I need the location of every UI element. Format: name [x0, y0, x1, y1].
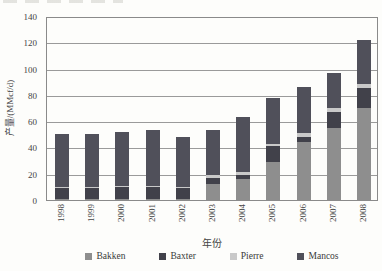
bar-segment-mancos-2000 — [115, 132, 129, 186]
bar-segment-baxter-2001 — [146, 187, 160, 199]
y-tick-label-60: 60 — [0, 117, 42, 127]
stacked-bar-2002 — [176, 137, 190, 200]
bar-segment-bakken-2004 — [236, 179, 250, 200]
x-tick-label-2006: 2006 — [298, 204, 308, 234]
bar-segment-bakken-1998 — [55, 199, 69, 200]
legend-label-bakken: Bakken — [96, 251, 125, 261]
legend-swatch-bakken — [85, 253, 92, 260]
legend-label-baxter: Baxter — [170, 251, 195, 261]
bar-segment-bakken-2003 — [206, 184, 220, 200]
bar-segment-bakken-2002 — [176, 199, 190, 200]
legend-item-pierre: Pierre — [230, 251, 264, 261]
bar-segment-mancos-1998 — [55, 134, 69, 187]
bar-segment-baxter-2007 — [327, 112, 341, 128]
scan-artifact — [3, 0, 123, 3]
bar-segment-mancos-2003 — [206, 130, 220, 175]
bar-segment-mancos-1999 — [85, 134, 99, 187]
bar-segment-mancos-2006 — [297, 87, 311, 133]
x-tick-label-1999: 1999 — [86, 204, 96, 234]
stacked-bar-2003 — [206, 130, 220, 200]
y-tick-label-20: 20 — [0, 170, 42, 180]
x-tick-label-2004: 2004 — [237, 204, 247, 234]
x-tick-label-2003: 2003 — [207, 204, 217, 234]
x-tick-label-1998: 1998 — [56, 204, 66, 234]
bar-segment-mancos-2004 — [236, 117, 250, 172]
stacked-bar-2001 — [146, 130, 160, 200]
bar-segment-baxter-2002 — [176, 188, 190, 199]
bar-segment-bakken-2005 — [266, 162, 280, 200]
y-tick-label-80: 80 — [0, 91, 42, 101]
bar-segment-bakken-2000 — [115, 199, 129, 200]
y-tick-label-140: 140 — [0, 12, 42, 22]
legend-item-mancos: Mancos — [297, 251, 338, 261]
stacked-bar-2006 — [297, 87, 311, 200]
x-tick-label-2000: 2000 — [116, 204, 126, 234]
bar-segment-baxter-2000 — [115, 187, 129, 199]
bar-segment-mancos-2002 — [176, 137, 190, 187]
legend-swatch-pierre — [230, 253, 237, 260]
x-tick-label-2001: 2001 — [147, 204, 157, 234]
stacked-bar-2004 — [236, 117, 250, 200]
gridline-y-120 — [47, 43, 377, 44]
bar-segment-baxter-2005 — [266, 146, 280, 162]
bar-segment-mancos-2008 — [357, 40, 371, 85]
bar-segment-bakken-2008 — [357, 108, 371, 200]
legend-swatch-baxter — [159, 253, 166, 260]
legend-item-baxter: Baxter — [159, 251, 195, 261]
y-tick-label-120: 120 — [0, 38, 42, 48]
y-axis-title: 产量/(MMcf/d) — [4, 63, 16, 153]
legend-item-bakken: Bakken — [85, 251, 125, 261]
bar-segment-mancos-2001 — [146, 130, 160, 185]
x-axis-title: 年份 — [46, 235, 378, 250]
legend-label-mancos: Mancos — [308, 251, 338, 261]
legend: BakkenBaxterPierreMancos — [46, 251, 378, 261]
bar-segment-mancos-2005 — [266, 98, 280, 144]
x-tick-label-2002: 2002 — [177, 204, 187, 234]
stacked-bar-2007 — [327, 73, 341, 200]
bar-segment-mancos-2007 — [327, 73, 341, 108]
plot-area — [46, 17, 378, 201]
legend-label-pierre: Pierre — [241, 251, 264, 261]
stacked-bar-2000 — [115, 132, 129, 200]
bar-segment-baxter-2008 — [357, 88, 371, 108]
bar-segment-baxter-1999 — [85, 188, 99, 199]
stacked-bar-2005 — [266, 98, 280, 201]
bar-segment-bakken-2001 — [146, 199, 160, 200]
legend-swatch-mancos — [297, 253, 304, 260]
stacked-bar-1999 — [85, 134, 99, 200]
bar-segment-bakken-1999 — [85, 199, 99, 200]
gridline-y-100 — [47, 70, 377, 71]
x-tick-label-2005: 2005 — [267, 204, 277, 234]
chart-figure: 产量/(MMcf/d) 年份 BakkenBaxterPierreMancos … — [0, 0, 382, 271]
y-tick-label-40: 40 — [0, 143, 42, 153]
stacked-bar-2008 — [357, 40, 371, 200]
bar-segment-bakken-2007 — [327, 128, 341, 200]
bar-segment-bakken-2006 — [297, 142, 311, 200]
x-tick-label-2008: 2008 — [358, 204, 368, 234]
x-tick-label-2007: 2007 — [328, 204, 338, 234]
y-tick-label-0: 0 — [0, 196, 42, 206]
bar-segment-baxter-1998 — [55, 188, 69, 199]
stacked-bar-1998 — [55, 134, 69, 200]
y-tick-label-100: 100 — [0, 65, 42, 75]
